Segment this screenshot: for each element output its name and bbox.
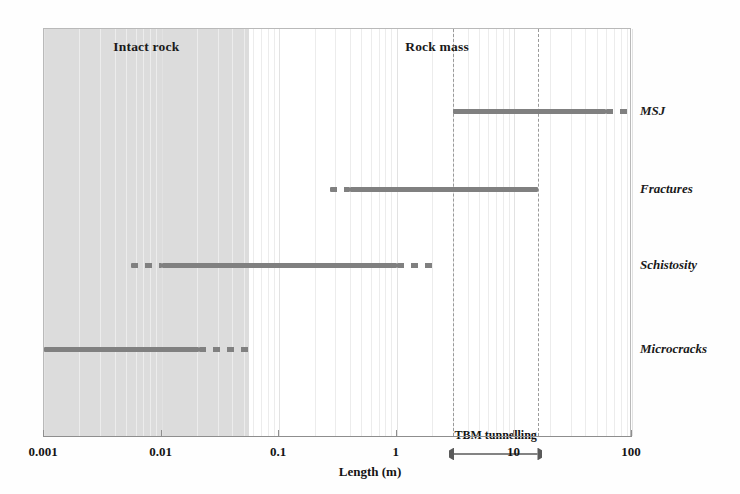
x-axis-tick-label: 0.01 [149, 444, 172, 460]
x-axis-tick-label: 1 [393, 444, 400, 460]
gridline [371, 29, 372, 436]
gridline [432, 29, 433, 436]
gridline [335, 29, 336, 436]
x-axis-tick [43, 430, 44, 437]
gridline [150, 29, 151, 436]
gridline [621, 29, 622, 436]
bar-schistosity-solid [162, 263, 397, 268]
gridline [79, 29, 80, 436]
gridline [632, 29, 633, 436]
gridline [571, 29, 572, 436]
tbm-tunnelling-arrow-icon [449, 447, 542, 461]
bar-fractures-solid [350, 187, 538, 192]
x-axis-tick [278, 430, 279, 437]
gridline [468, 29, 469, 436]
gridline [350, 29, 351, 436]
gridline [232, 29, 233, 436]
gridline [514, 29, 515, 436]
gridline [361, 29, 362, 436]
gridline [496, 29, 497, 436]
category-label-schistosity: Schistosity [640, 257, 697, 273]
gridline [479, 29, 480, 436]
gridline [509, 29, 510, 436]
gridline [503, 29, 504, 436]
gridline [550, 29, 551, 436]
bar-msj-dashed-right [606, 109, 632, 114]
bar-microcracks-dashed-right [199, 347, 248, 352]
bar-schistosity-dashed-right [397, 263, 437, 268]
gridline [218, 29, 219, 436]
x-axis-tick [631, 430, 632, 437]
gridline [279, 29, 280, 436]
gridline [315, 29, 316, 436]
figure-canvas: Intact rock Rock mass TBM tunnelling MSJ… [0, 0, 740, 494]
gridline [614, 29, 615, 436]
tbm-boundary-gridline [453, 29, 454, 436]
x-axis-tick-label: 100 [621, 444, 641, 460]
gridline [244, 29, 245, 436]
region-label-rock-mass: Rock mass [405, 39, 469, 55]
x-axis-title: Length (m) [0, 464, 740, 480]
plot-area: Intact rock Rock mass TBM tunnelling [43, 28, 631, 436]
gridline [156, 29, 157, 436]
x-axis-tick-label: 0.001 [28, 444, 57, 460]
bar-msj-solid [453, 109, 606, 114]
region-label-intact-rock: Intact rock [113, 39, 179, 55]
gridline [585, 29, 586, 436]
bar-microcracks-solid [44, 347, 199, 352]
gridline [606, 29, 607, 436]
tbm-boundary-gridline [538, 29, 539, 436]
x-axis-tick [161, 430, 162, 437]
gridline [274, 29, 275, 436]
x-axis-tick-label: 10 [507, 444, 520, 460]
gridline [197, 29, 198, 436]
gridline [44, 29, 45, 436]
bar-fractures-dashed-left [330, 187, 350, 192]
category-label-msj: MSJ [640, 103, 665, 119]
gridline [162, 29, 163, 436]
gridline [261, 29, 262, 436]
gridline [597, 29, 598, 436]
x-axis-tick [396, 430, 397, 437]
x-axis-tick-label: 0.1 [270, 444, 286, 460]
gridline [143, 29, 144, 436]
gridline [136, 29, 137, 436]
x-axis-line [43, 436, 631, 437]
gridline [397, 29, 398, 436]
gridline [627, 29, 628, 436]
bar-schistosity-dashed-left [131, 263, 162, 268]
gridline [115, 29, 116, 436]
gridline [379, 29, 380, 436]
gridline [100, 29, 101, 436]
gridline [385, 29, 386, 436]
gridline [391, 29, 392, 436]
gridline [253, 29, 254, 436]
x-axis-tick [513, 430, 514, 437]
category-label-fractures: Fractures [640, 181, 693, 197]
gridline [126, 29, 127, 436]
gridline [268, 29, 269, 436]
gridline [488, 29, 489, 436]
category-label-microcracks: Microcracks [640, 341, 707, 357]
